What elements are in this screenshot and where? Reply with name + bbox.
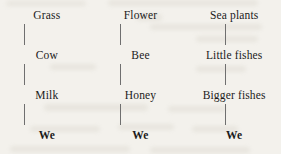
chain-connector xyxy=(24,104,25,125)
chain-node: Cow xyxy=(0,49,94,61)
chain-connector xyxy=(24,24,25,45)
chain-node: Milk xyxy=(0,89,94,101)
chain-connector xyxy=(120,24,121,45)
chain-node: Flower xyxy=(94,9,188,21)
food-chain-flower: Flower Bee Honey We xyxy=(94,0,188,154)
chain-connector xyxy=(120,104,121,125)
chain-node: We xyxy=(0,129,94,141)
chain-node: We xyxy=(187,129,281,141)
chain-node: We xyxy=(94,129,188,141)
food-chain-sea: Sea plants Little fishes Bigger fishes W… xyxy=(187,0,281,154)
chain-connector xyxy=(24,64,25,85)
chain-node: Grass xyxy=(0,9,94,21)
chain-connector xyxy=(120,64,121,85)
chain-connector xyxy=(225,24,226,45)
chain-node: Bee xyxy=(94,49,188,61)
chain-node: Bigger fishes xyxy=(187,89,281,101)
chain-node: Little fishes xyxy=(187,49,281,61)
food-chain-diagram: Grass Cow Milk We Flower Bee Honey We Se… xyxy=(0,0,281,154)
chain-node: Honey xyxy=(94,89,188,101)
food-chain-grass: Grass Cow Milk We xyxy=(0,0,94,154)
chain-connector xyxy=(225,104,226,125)
chain-connector xyxy=(225,64,226,85)
chain-node: Sea plants xyxy=(187,9,281,21)
